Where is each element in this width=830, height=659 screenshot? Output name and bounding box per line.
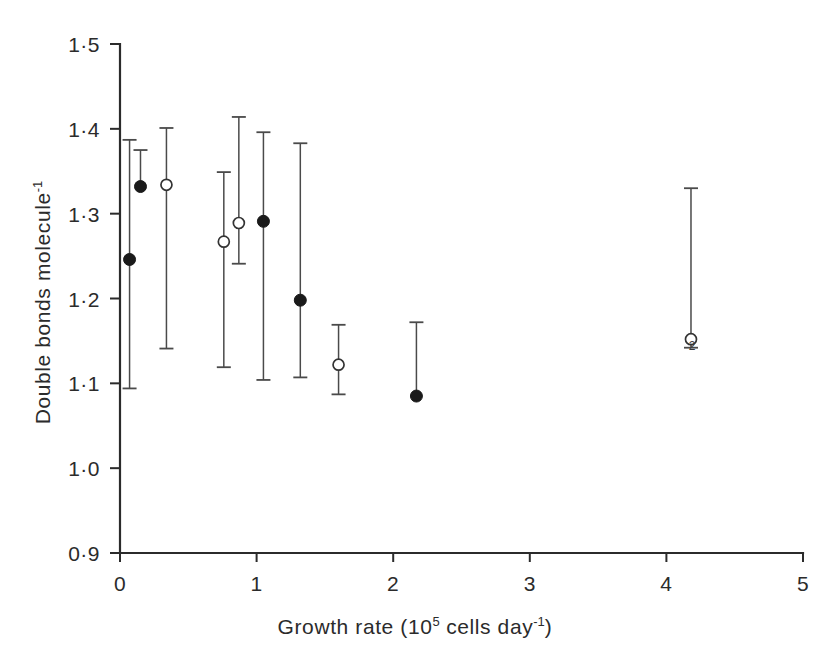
filled-circle-marker xyxy=(410,390,422,402)
y-tick-label: 1·0 xyxy=(28,458,100,479)
data-point-group xyxy=(256,132,270,380)
x-axis-title-exponent: 5 xyxy=(432,614,439,629)
x-tick-label: 2 xyxy=(387,573,399,594)
y-axis-title-exponent: -1 xyxy=(30,181,45,193)
x-tick-label: 0 xyxy=(114,573,126,594)
data-point-group xyxy=(123,140,137,389)
data-point-group xyxy=(684,188,698,347)
filled-circle-marker xyxy=(257,215,269,227)
data-point-group xyxy=(409,322,423,402)
data-point-group xyxy=(217,172,231,367)
x-axis-title-prefix: Growth rate (10 xyxy=(278,615,433,638)
data-point-group xyxy=(159,128,173,349)
x-axis-title: Growth rate (105 cells day-1) xyxy=(0,614,830,639)
y-tick-label: 1·4 xyxy=(28,118,100,139)
y-tick-label: 1·5 xyxy=(28,34,100,55)
x-tick-label: 1 xyxy=(251,573,263,594)
data-point-group xyxy=(293,143,307,377)
data-point-group xyxy=(332,325,346,395)
x-axis-title-exponent-2: -1 xyxy=(533,614,545,629)
filled-circle-marker xyxy=(134,181,146,193)
y-tick-label: 1·3 xyxy=(28,203,100,224)
data-point-group xyxy=(133,150,147,192)
x-tick-label: 3 xyxy=(524,573,536,594)
x-tick-label: 5 xyxy=(797,573,809,594)
open-circle-marker xyxy=(233,217,244,228)
figure-canvas: Double bonds molecule-1 Growth rate (105… xyxy=(0,0,830,659)
data-point-label: 2 xyxy=(689,339,696,353)
y-tick-label: 1·2 xyxy=(28,288,100,309)
y-tick-label: 0·9 xyxy=(28,543,100,564)
y-tick-label: 1·1 xyxy=(28,373,100,394)
x-axis-title-mid: cells day xyxy=(440,615,534,638)
x-tick-label: 4 xyxy=(660,573,672,594)
open-circle-marker xyxy=(218,236,229,247)
open-circle-marker xyxy=(333,359,344,370)
data-point-group xyxy=(232,117,246,264)
filled-circle-marker xyxy=(124,253,136,265)
scatter-plot xyxy=(0,0,830,659)
x-axis-title-suffix: ) xyxy=(545,615,553,638)
open-circle-marker xyxy=(161,179,172,190)
filled-circle-marker xyxy=(294,294,306,306)
